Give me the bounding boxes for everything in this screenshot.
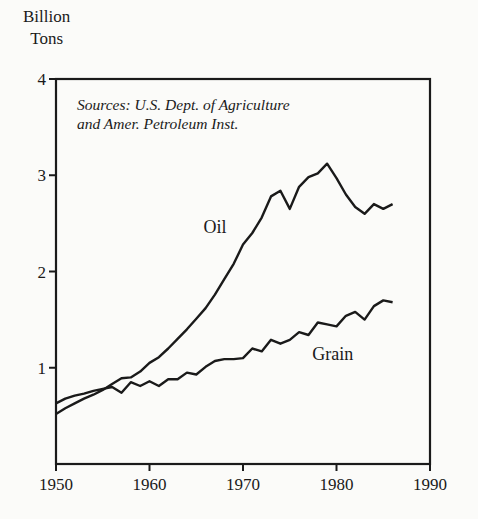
x-tick-label: 1970 <box>226 475 260 494</box>
y-tick-label: 4 <box>38 70 47 89</box>
y-tick-label: 2 <box>38 263 47 282</box>
x-tick-label: 1980 <box>320 475 354 494</box>
x-tick-label: 1990 <box>413 475 447 494</box>
y-axis-ticks: 1234 <box>38 70 57 378</box>
x-tick-label: 1950 <box>39 475 73 494</box>
oil-label: Oil <box>203 217 226 237</box>
series-lines <box>56 164 393 414</box>
x-tick-label: 1960 <box>133 475 167 494</box>
plot-border <box>56 79 430 464</box>
y-tick-label: 3 <box>38 166 47 185</box>
oil-line <box>56 164 393 414</box>
grain-label: Grain <box>312 344 353 364</box>
x-axis-ticks: 19501960197019801990 <box>39 464 447 494</box>
y-tick-label: 1 <box>38 359 47 378</box>
source-note-line-2: and Amer. Petroleum Inst. <box>77 115 238 132</box>
line-chart: 1234 19501960197019801990 OilGrain Sourc… <box>0 0 478 519</box>
plot-frame <box>56 79 430 464</box>
source-note-line-1: Sources: U.S. Dept. of Agriculture <box>77 96 290 113</box>
